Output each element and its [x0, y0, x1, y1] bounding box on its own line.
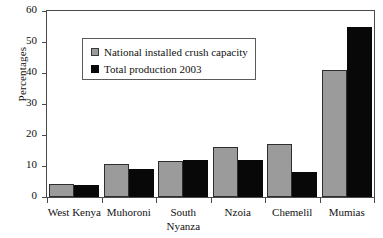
bar	[292, 172, 317, 197]
legend-item: Total production 2003	[91, 61, 255, 77]
x-axis-label: Mumias	[320, 205, 375, 219]
bar	[49, 184, 74, 197]
x-axis-tick-mark	[156, 198, 157, 203]
bar-group	[265, 11, 320, 197]
x-axis-label: West Kenya	[47, 205, 102, 219]
bar	[267, 144, 292, 197]
x-axis-tick-mark	[265, 198, 266, 203]
x-axis-label-line: Nyanza	[156, 219, 211, 233]
bar	[238, 160, 263, 197]
x-axis-tick-mark	[320, 198, 321, 203]
y-axis-tick-label: 0	[32, 189, 38, 201]
x-axis-label-line: Muhoroni	[107, 206, 151, 218]
bar	[347, 27, 372, 198]
legend-item-label: National installed crush capacity	[104, 46, 248, 58]
bar	[158, 161, 183, 197]
x-axis-label-line: Chemelil	[272, 206, 312, 218]
x-axis-label: Chemelil	[265, 205, 320, 219]
legend-item-label: Total production 2003	[104, 63, 202, 75]
y-axis-tick-label: 40	[26, 65, 37, 77]
bar	[213, 147, 238, 197]
bar	[129, 169, 154, 197]
x-axis-label-line: Mumias	[329, 206, 365, 218]
x-axis-tick-mark	[374, 198, 375, 203]
x-axis-tick-mark	[102, 198, 103, 203]
chart-legend: National installed crush capacity Total …	[82, 38, 256, 80]
x-axis-label-line: South	[170, 206, 196, 218]
x-axis-label: Nzoia	[211, 205, 266, 219]
x-axis-tick-mark	[211, 198, 212, 203]
x-axis-label: SouthNyanza	[156, 205, 211, 233]
x-axis-label-line: West Kenya	[48, 206, 101, 218]
bar	[104, 164, 129, 197]
y-axis-tick-label: 10	[26, 158, 37, 170]
bar	[322, 70, 347, 197]
bar	[74, 185, 99, 197]
y-axis-tick-label: 30	[26, 96, 37, 108]
bar-chart: Percentages 6050403020100 West KenyaMuho…	[0, 0, 383, 238]
legend-item: National installed crush capacity	[91, 44, 255, 60]
bar-group	[320, 11, 375, 197]
y-axis-tick-label: 20	[26, 127, 37, 139]
bar	[183, 160, 208, 197]
black-swatch-icon	[91, 65, 99, 73]
y-axis-tick-label: 60	[26, 3, 37, 15]
y-axis-tick-label: 50	[26, 34, 37, 46]
x-axis-label-line: Nzoia	[225, 206, 251, 218]
x-axis-tick-mark	[47, 198, 48, 203]
gray-swatch-icon	[91, 48, 99, 56]
x-axis-label: Muhoroni	[102, 205, 157, 219]
